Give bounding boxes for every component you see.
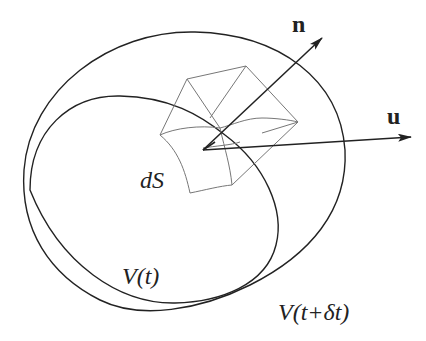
surface-element-box [160, 66, 298, 193]
volume-t-label: V(t) [122, 264, 159, 288]
diagram-canvas [0, 0, 426, 341]
volume-t-dt-label: V(t+δt) [278, 300, 349, 324]
normal-vector-label: n [292, 12, 305, 36]
velocity-vector-label: u [387, 104, 400, 128]
surface-element-label: dS [140, 168, 164, 192]
